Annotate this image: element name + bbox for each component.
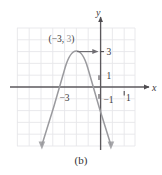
y-tick-label-neg1: −1 <box>104 95 114 105</box>
coordinate-plane-graph: (−3, 3) 3 1 −1 −3 1 y x <box>0 8 162 154</box>
x-tick-label-neg3: −3 <box>60 93 70 103</box>
x-axis-label: x <box>151 82 157 93</box>
y-axis-label: y <box>95 8 101 18</box>
y-tick-label-3: 3 <box>107 47 112 57</box>
figure-caption: (b) <box>0 154 162 166</box>
y-tick-label-1: 1 <box>107 71 112 81</box>
vertex-label-close: ) <box>71 34 74 45</box>
x-tick-label-1: 1 <box>126 93 131 103</box>
figure-panel-b: (−3, 3) 3 1 −1 −3 1 y x (b) <box>0 0 162 175</box>
page-bleed-text <box>38 1 110 6</box>
vertex-label: (−3, 3) <box>49 34 75 45</box>
vertex-label-open: (−3, <box>49 34 67 45</box>
